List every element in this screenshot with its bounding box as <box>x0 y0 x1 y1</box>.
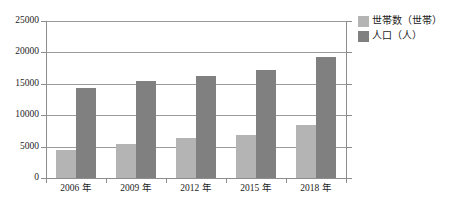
bar-population <box>76 88 96 178</box>
y-axis-tick-label: 10000 <box>0 110 39 120</box>
x-axis-tick-label: 2006 年 <box>46 184 106 194</box>
bar-households <box>176 138 196 178</box>
x-axis-tick <box>226 179 227 183</box>
x-axis-tick <box>46 179 47 183</box>
y-axis-tick-right <box>347 84 352 85</box>
chart-legend: 世帯数（世帯）人口（人） <box>358 14 442 44</box>
x-axis-tick <box>106 179 107 183</box>
y-axis-tick-right <box>347 52 352 53</box>
y-axis-tick-right <box>347 21 352 22</box>
plot-area <box>46 21 346 178</box>
bar-population <box>196 76 216 178</box>
bar-households <box>116 144 136 178</box>
x-axis <box>46 178 347 179</box>
bar-population <box>136 81 156 178</box>
bar-households <box>236 135 256 178</box>
legend-item: 世帯数（世帯） <box>358 14 442 28</box>
bar-population <box>316 57 336 178</box>
y-axis-tick-label: 15000 <box>0 79 39 89</box>
x-axis-tick <box>346 179 347 183</box>
y-axis-tick-right <box>347 178 352 179</box>
y-axis-tick-label: 20000 <box>0 47 39 57</box>
legend-label: 人口（人） <box>372 31 422 41</box>
y-axis-tick-label: 0 <box>0 173 39 183</box>
legend-item: 人口（人） <box>358 29 442 43</box>
x-axis-tick-label: 2012 年 <box>166 184 226 194</box>
y-axis-tick-right <box>347 147 352 148</box>
y-axis-tick-label: 25000 <box>0 16 39 26</box>
legend-swatch-households <box>358 16 369 27</box>
y-axis-tick-right <box>347 115 352 116</box>
x-axis-tick <box>166 179 167 183</box>
y-axis-tick-label: 5000 <box>0 142 39 152</box>
bar-households <box>56 150 76 178</box>
x-axis-tick <box>286 179 287 183</box>
x-axis-tick-label: 2015 年 <box>226 184 286 194</box>
x-axis-tick-label: 2018 年 <box>286 184 346 194</box>
bar-population <box>256 70 276 178</box>
legend-label: 世帯数（世帯） <box>372 16 442 26</box>
legend-swatch-population <box>358 31 369 42</box>
bar-households <box>296 125 316 178</box>
bar-chart: 0500010000150002000025000 2006 年2009 年20… <box>0 0 466 213</box>
x-axis-tick-label: 2009 年 <box>106 184 166 194</box>
y-axis-right <box>346 21 347 179</box>
